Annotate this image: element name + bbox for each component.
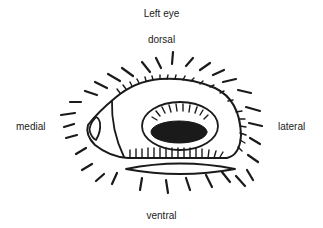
pupil [151, 121, 207, 143]
iris-ticks [152, 104, 208, 120]
ventral-lens-shape [126, 164, 235, 175]
medial-fold [112, 101, 124, 157]
eyelid-outline [87, 79, 241, 158]
eye-diagram [0, 0, 323, 228]
